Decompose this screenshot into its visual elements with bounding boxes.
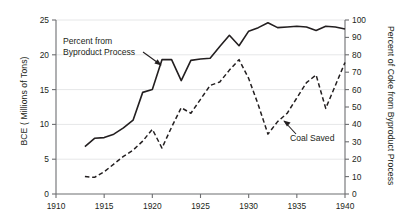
annotation-coal-saved: Coal Saved	[290, 133, 334, 144]
y-tick-label-right: 50	[352, 102, 362, 112]
annotation-arrows	[143, 52, 296, 134]
y-tick-label-right: 70	[352, 67, 362, 77]
annotation-percent-line2: Byproduct Process	[63, 47, 135, 58]
y-tick-label-right: 20	[352, 154, 362, 164]
y-tick-label-left: 25	[40, 15, 50, 25]
y-tick-label-right: 30	[352, 137, 362, 147]
y-tick-label-right: 10	[352, 172, 362, 182]
annotation-percent-from-byproduct: Percent from Byproduct Process	[63, 36, 135, 58]
y-tick-label-left: 5	[44, 154, 49, 164]
chart-plot-area: 0510152025 0102030405060708090100 191019…	[0, 0, 396, 224]
y-tick-label-right: 90	[352, 32, 362, 42]
y-axis-label-left: BCE ( Millions of Tons)	[19, 31, 29, 171]
y-tick-label-right: 80	[352, 50, 362, 60]
y-tick-label-left: 20	[40, 50, 50, 60]
x-tick-label: 1935	[288, 201, 307, 211]
right-axis-ticks: 0102030405060708090100	[345, 15, 366, 199]
x-tick-label: 1910	[47, 201, 66, 211]
x-tick-label: 1930	[239, 201, 258, 211]
y-axis-label-right: Percent of Coke from Byproduct Process	[386, 26, 396, 176]
arrow-head-coal	[283, 120, 290, 126]
y-tick-label-right: 0	[352, 189, 357, 199]
annotation-percent-line1: Percent from	[63, 36, 135, 47]
x-tick-label: 1920	[143, 201, 162, 211]
x-tick-label: 1925	[191, 201, 210, 211]
y-tick-label-left: 10	[40, 119, 50, 129]
chart-container: 0510152025 0102030405060708090100 191019…	[0, 0, 396, 224]
x-tick-label: 1915	[95, 201, 114, 211]
y-tick-label-left: 15	[40, 85, 50, 95]
y-tick-label-right: 100	[352, 15, 366, 25]
y-tick-label-right: 60	[352, 85, 362, 95]
annotation-coal-line1: Coal Saved	[290, 133, 334, 144]
bottom-axis-ticks: 1910191519201925193019351940	[47, 194, 355, 211]
left-axis-ticks: 0510152025	[40, 15, 56, 199]
x-tick-label: 1940	[336, 201, 355, 211]
y-tick-label-left: 0	[44, 189, 49, 199]
y-tick-label-right: 40	[352, 119, 362, 129]
